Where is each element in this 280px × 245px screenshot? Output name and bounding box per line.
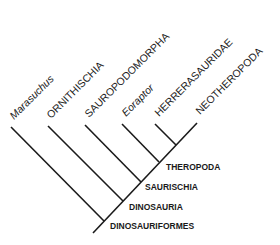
- taxon-label-neotheropoda: NEOTHEROPODA: [193, 45, 265, 117]
- taxon-label-herrerasauridae: HERRERASAURIDAE: [152, 36, 235, 119]
- taxon-label-eoraptor: Eoraptor: [119, 81, 156, 118]
- trunk-line: [93, 123, 197, 233]
- branch-eoraptor: [122, 124, 159, 162]
- clade-label-saurischia: SAURISCHIA: [145, 182, 198, 192]
- clade-label-dinosauriformes: DINOSAURIFORMES: [110, 221, 194, 231]
- branch-sauropodomorpha: [85, 125, 141, 182]
- branch-ornithischia: [48, 126, 123, 201]
- clade-label-dinosauria: DINOSAURIA: [129, 202, 183, 212]
- clade-label-theropoda: THEROPODA: [166, 162, 220, 172]
- branch-marasuchus: [11, 127, 104, 221]
- cladogram: Marasuchus ORNITHISCHIA SAUROPODOMORPHA …: [0, 0, 280, 245]
- branch-herrerasauridae: [155, 124, 176, 145]
